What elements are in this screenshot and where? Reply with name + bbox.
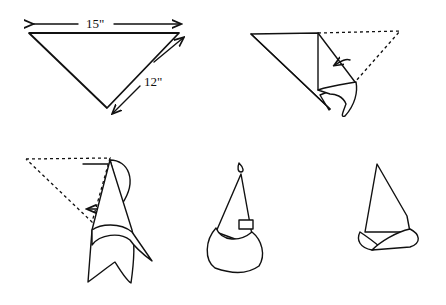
tab xyxy=(239,220,253,229)
side-arrow-up xyxy=(154,38,183,62)
step-5-finished-cone xyxy=(359,164,419,250)
width-label: 15" xyxy=(86,16,104,31)
cone-tip xyxy=(238,163,243,172)
step-2-fold-right xyxy=(251,31,400,116)
step-1-triangle: 15" 12" xyxy=(29,16,183,113)
cone-body xyxy=(365,164,410,232)
napkin-fold-diagram: 15" 12" xyxy=(0,0,446,305)
folded-body xyxy=(251,33,355,110)
side-label: 12" xyxy=(144,74,162,89)
step-3-fold-left xyxy=(26,158,152,283)
side-arrow-down xyxy=(113,86,140,113)
step-4-cone-with-tab xyxy=(207,163,262,272)
napkin-triangle xyxy=(29,33,179,108)
